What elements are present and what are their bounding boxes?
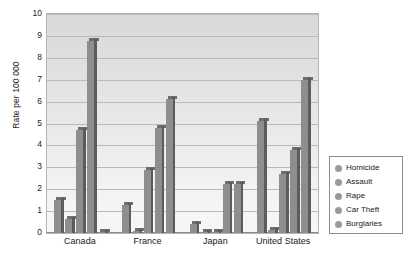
bar-group-france [122, 14, 176, 233]
bar-united-states-homicide [257, 118, 267, 233]
bar-united-states-car-theft [290, 147, 300, 233]
legend-label: Assault [346, 175, 372, 189]
y-tick-label-0: 0 [18, 228, 42, 237]
bar-front-face [257, 121, 264, 233]
x-tick-label-canada: Canada [46, 236, 114, 246]
y-tick-label-2: 2 [18, 184, 42, 193]
bar-front-face [98, 232, 105, 233]
bar-united-states-burglaries [301, 77, 311, 233]
legend-swatch-icon [335, 207, 342, 214]
bar-group-japan [190, 14, 244, 233]
bar-canada-rape [76, 127, 86, 233]
bar-canada-car-theft [87, 38, 97, 233]
chart-legend: HomicideAssaultRapeCar TheftBurglaries [329, 156, 403, 234]
legend-label: Car Theft [346, 203, 379, 217]
bar-front-face [166, 99, 173, 233]
bar-france-burglaries [166, 96, 176, 233]
x-axis-tick-labels: CanadaFranceJapanUnited States [46, 236, 319, 254]
bar-chart: Rate per 100 000 012345678910 CanadaFran… [0, 0, 407, 259]
bar-front-face [190, 224, 197, 233]
legend-swatch-icon [335, 165, 342, 172]
bar-france-car-theft [155, 125, 165, 233]
y-tick-label-3: 3 [18, 162, 42, 171]
bar-front-face [279, 174, 286, 233]
bar-canada-burglaries [98, 229, 108, 233]
bar-france-rape [144, 167, 154, 234]
legend-item-rape[interactable]: Rape [335, 189, 399, 203]
bar-front-face [87, 41, 94, 233]
bar-united-states-assault [268, 227, 278, 233]
bar-front-face [234, 184, 241, 233]
plot-inner [47, 14, 318, 233]
bar-front-face [122, 205, 129, 233]
legend-swatch-icon [335, 179, 342, 186]
legend-swatch-icon [335, 193, 342, 200]
bar-front-face [212, 232, 219, 233]
bar-front-face [65, 219, 72, 233]
legend-swatch-icon [335, 221, 342, 228]
bar-japan-car-theft [223, 181, 233, 233]
y-tick-label-9: 9 [18, 31, 42, 40]
legend-item-burglaries[interactable]: Burglaries [335, 217, 399, 231]
bar-france-homicide [122, 202, 132, 233]
bar-canada-homicide [54, 197, 64, 233]
bar-front-face [223, 184, 230, 233]
y-axis-tick-labels: 012345678910 [16, 13, 42, 234]
y-tick-label-5: 5 [18, 119, 42, 128]
bar-japan-burglaries [234, 181, 244, 233]
y-tick-label-4: 4 [18, 140, 42, 149]
bar-japan-rape [212, 229, 222, 233]
bar-front-face [290, 150, 297, 233]
y-tick-label-8: 8 [18, 53, 42, 62]
y-tick-label-6: 6 [18, 97, 42, 106]
bar-group-united-states [257, 14, 311, 233]
bar-front-face [133, 231, 140, 233]
bar-united-states-rape [279, 171, 289, 233]
legend-item-homicide[interactable]: Homicide [335, 161, 399, 175]
legend-label: Rape [346, 189, 365, 203]
bar-front-face [268, 230, 275, 233]
bar-japan-homicide [190, 221, 200, 233]
bar-front-face [76, 130, 83, 233]
bar-canada-assault [65, 216, 75, 233]
bar-france-assault [133, 228, 143, 233]
legend-label: Homicide [346, 161, 379, 175]
legend-item-car-theft[interactable]: Car Theft [335, 203, 399, 217]
x-tick-label-japan: Japan [182, 236, 250, 246]
bar-japan-assault [201, 229, 211, 233]
x-tick-label-france: France [114, 236, 182, 246]
y-tick-label-7: 7 [18, 75, 42, 84]
bar-front-face [144, 170, 151, 234]
y-tick-label-1: 1 [18, 206, 42, 215]
bar-front-face [155, 128, 162, 233]
legend-item-assault[interactable]: Assault [335, 175, 399, 189]
y-tick-label-10: 10 [18, 9, 42, 18]
x-tick-label-united-states: United States [249, 236, 317, 246]
bar-front-face [301, 80, 308, 233]
bar-group-canada [54, 14, 108, 233]
bar-front-face [201, 232, 208, 233]
plot-area [46, 13, 319, 234]
bar-front-face [54, 200, 61, 233]
legend-label: Burglaries [346, 217, 382, 231]
